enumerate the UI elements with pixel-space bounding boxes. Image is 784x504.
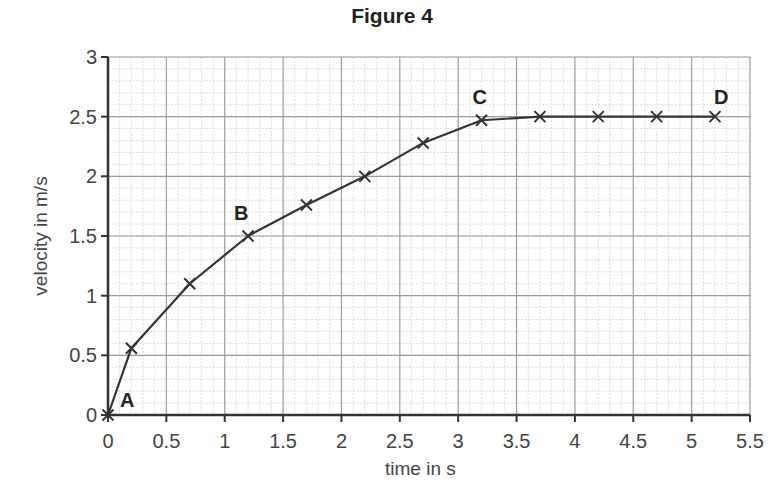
y-tick-label: 1	[86, 285, 97, 307]
x-tick-label: 5	[686, 430, 697, 452]
y-tick-label: 3	[86, 46, 97, 68]
x-tick-label: 1.5	[269, 430, 297, 452]
labels: time in svelocity in m/sABCD	[30, 86, 728, 479]
x-tick-label: 3	[453, 430, 464, 452]
x-axis-title: time in s	[385, 458, 456, 479]
x-tick-label: 2	[336, 430, 347, 452]
point-label-d: D	[714, 86, 728, 108]
point-label-a: A	[120, 389, 134, 411]
x-tick-label: 4	[569, 430, 580, 452]
y-axis-title: velocity in m/s	[30, 176, 51, 295]
x-tick-label: 0	[102, 430, 113, 452]
y-tick-label: 2.5	[69, 106, 97, 128]
x-tick-label: 0.5	[152, 430, 180, 452]
x-tick-label: 2.5	[386, 430, 414, 452]
data-series	[103, 111, 721, 420]
y-tick-label: 2	[86, 165, 97, 187]
x-tick-label: 3.5	[503, 430, 531, 452]
y-tick-label: 1.5	[69, 225, 97, 247]
y-tick-label: 0.5	[69, 344, 97, 366]
grid	[108, 57, 750, 415]
x-tick-label: 4.5	[619, 430, 647, 452]
x-tick-label: 5.5	[736, 430, 764, 452]
point-label-b: B	[234, 202, 248, 224]
x-tick-label: 1	[219, 430, 230, 452]
velocity-time-chart: 00.511.522.533.544.555.500.511.522.53 ti…	[0, 0, 784, 504]
y-tick-label: 0	[86, 404, 97, 426]
point-label-c: C	[473, 86, 487, 108]
